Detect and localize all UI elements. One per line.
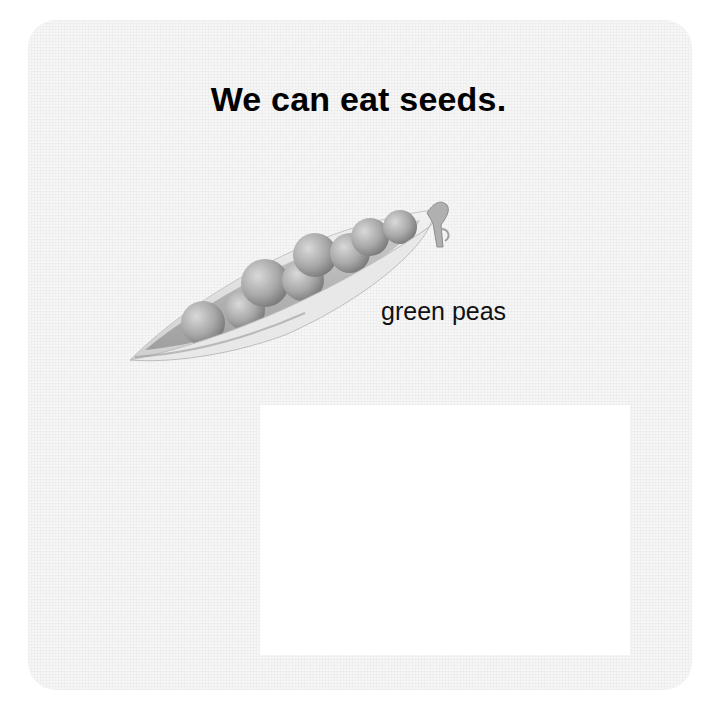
blank-panel xyxy=(260,405,630,655)
pea-pod-image xyxy=(115,185,475,375)
pea-pod-icon xyxy=(115,185,475,375)
page-title: We can eat seeds. xyxy=(0,80,717,119)
image-caption: green peas xyxy=(381,297,506,326)
